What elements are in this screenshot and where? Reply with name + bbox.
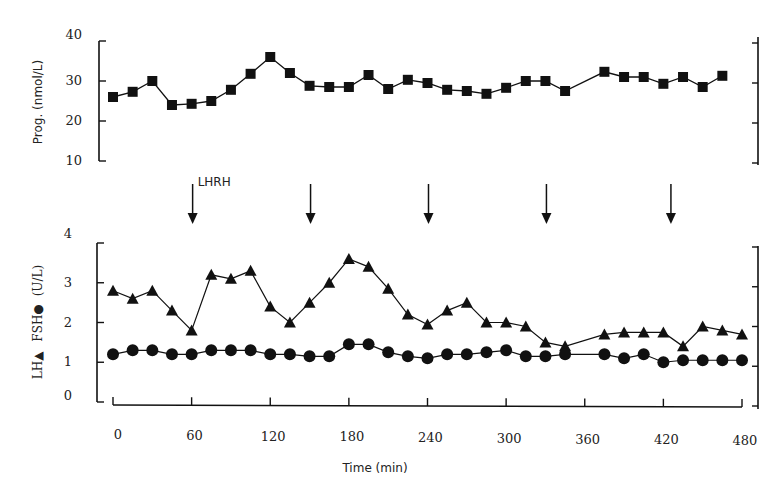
prog-square-marker [442, 85, 452, 95]
prog-square-marker [521, 76, 531, 86]
fsh-circle-marker [284, 348, 296, 360]
fsh-circle-marker [618, 352, 630, 364]
lh-fsh-panel: 01234 [64, 226, 758, 409]
prog-square-marker [147, 76, 157, 86]
fsh-circle-marker [520, 350, 532, 362]
prog-square-marker [481, 89, 491, 99]
prog-tick-label: 30 [65, 73, 82, 88]
lh-label: LH▲ [31, 351, 45, 379]
svg-text:LH▲ FSH● (U/L): LH▲ FSH● (U/L) [31, 265, 45, 379]
fsh-circle-marker [186, 348, 198, 360]
down-arrow-icon [424, 213, 434, 224]
fsh-circle-marker [441, 348, 453, 360]
prog-square-marker [364, 70, 374, 80]
prog-square-marker [285, 68, 295, 78]
fsh-circle-marker [225, 344, 237, 356]
prog-tick-label: 40 [65, 27, 82, 42]
lhrh-arrows: LHRH [188, 175, 676, 224]
prog-square-marker [324, 82, 334, 92]
down-arrow-icon [188, 213, 198, 224]
fsh-circle-marker [363, 338, 375, 350]
lh-triangle-marker [245, 265, 257, 276]
fsh-circle-marker [422, 352, 434, 364]
time-tick-label: 240 [418, 430, 443, 445]
time-axis-title: Time (min) [341, 461, 407, 475]
lh-triangle-marker [402, 309, 414, 320]
fsh-circle-marker [166, 348, 178, 360]
prog-square-marker [403, 75, 413, 85]
prog-square-marker [462, 86, 472, 96]
fsh-circle-marker [127, 344, 139, 356]
fsh-circle-marker [304, 350, 316, 362]
lh-triangle-marker [264, 301, 276, 312]
prog-square-marker [344, 82, 354, 92]
time-tick-label: 180 [339, 429, 364, 444]
lh-triangle-marker [422, 318, 434, 329]
lh-fsh-axis-title: LH▲ FSH● (U/L) [31, 265, 45, 379]
prog-square-marker [639, 72, 649, 82]
time-tick-label: 120 [261, 429, 286, 444]
lh-fsh-tick-label: 3 [64, 275, 72, 290]
time-tick-label: 300 [497, 431, 522, 446]
prog-square-marker [305, 81, 315, 91]
lh-triangle-marker [107, 285, 119, 296]
fsh-circle-marker [107, 348, 119, 360]
fsh-circle-marker [343, 338, 355, 350]
fsh-circle-marker [245, 344, 257, 356]
fsh-circle-marker [264, 348, 276, 360]
lh-triangle-marker [461, 297, 473, 308]
prog-line [113, 57, 722, 105]
time-tick-label: 480 [733, 433, 758, 448]
fsh-circle-marker [323, 350, 335, 362]
prog-tick-label: 20 [65, 113, 82, 128]
prog-square-marker [108, 92, 118, 102]
lhrh-label: LHRH [198, 175, 231, 189]
fsh-circle-marker [480, 346, 492, 358]
prog-square-marker [226, 85, 236, 95]
fsh-circle-marker [402, 350, 414, 362]
lh-fsh-tick-label: 2 [64, 315, 72, 330]
time-tick-label: 360 [575, 432, 600, 447]
hormone-chart: 10203040 LHRH 01234 06012018024030036042… [0, 0, 783, 501]
lh-fsh-tick-label: 0 [64, 388, 72, 403]
prog-square-marker [246, 69, 256, 79]
prog-square-marker [383, 84, 393, 94]
fsh-circle-marker [539, 350, 551, 362]
prog-square-marker [265, 52, 275, 62]
prog-square-marker [560, 86, 570, 96]
lh-fsh-tick-label: 1 [64, 354, 72, 369]
prog-square-marker [698, 82, 708, 92]
fsh-circle-marker [559, 348, 571, 360]
fsh-circle-marker [146, 344, 158, 356]
prog-square-marker [658, 79, 668, 89]
fsh-label: FSH● [31, 304, 45, 341]
fsh-circle-marker [736, 354, 748, 366]
lh-line [113, 259, 742, 346]
time-axis: 060120180240300360420480 [113, 397, 757, 448]
lh-triangle-marker [539, 336, 551, 347]
lh-triangle-marker [697, 320, 709, 331]
fsh-circle-marker [500, 344, 512, 356]
down-arrow-icon [541, 213, 551, 224]
lh-triangle-marker [363, 261, 375, 272]
lh-triangle-marker [127, 293, 139, 304]
fsh-circle-marker [716, 354, 728, 366]
prog-square-marker [206, 96, 216, 106]
prog-square-marker [678, 72, 688, 82]
fsh-circle-marker [598, 348, 610, 360]
down-arrow-icon [666, 213, 676, 224]
fsh-circle-marker [382, 346, 394, 358]
lh-triangle-marker [146, 285, 158, 296]
fsh-circle-marker [205, 344, 217, 356]
prog-square-marker [501, 83, 511, 93]
time-tick-label: 60 [186, 428, 203, 443]
fsh-circle-marker [677, 354, 689, 366]
lh-triangle-marker [343, 253, 355, 264]
prog-square-marker [167, 100, 177, 110]
prog-square-marker [540, 76, 550, 86]
lh-fsh-tick-label: 4 [64, 226, 72, 241]
lh-triangle-marker [205, 269, 217, 280]
prog-square-marker [599, 67, 609, 77]
progesterone-panel: 10203040 [65, 27, 758, 168]
prog-square-marker [187, 99, 197, 109]
